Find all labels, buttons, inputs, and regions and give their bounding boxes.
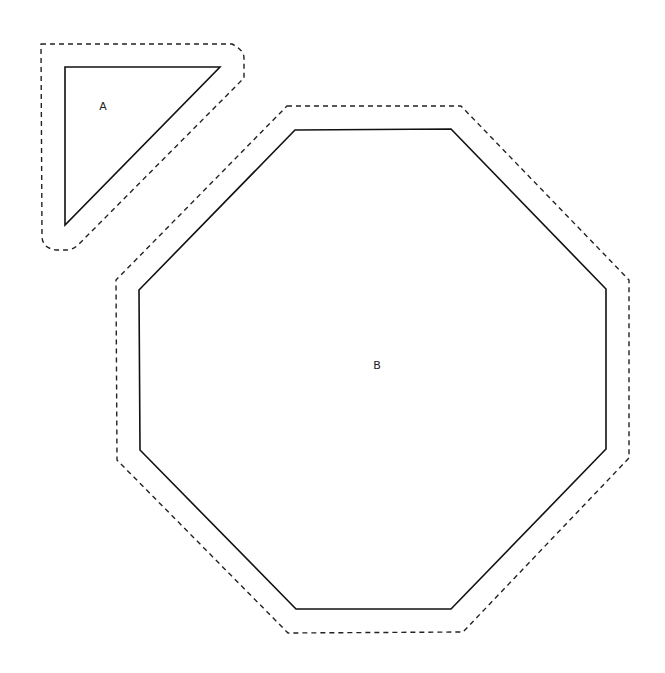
- shape-a-triangle: [65, 67, 220, 225]
- shape-b-label: B: [373, 360, 381, 371]
- diagram-canvas: A B: [0, 0, 665, 673]
- shape-a-label: A: [99, 101, 107, 112]
